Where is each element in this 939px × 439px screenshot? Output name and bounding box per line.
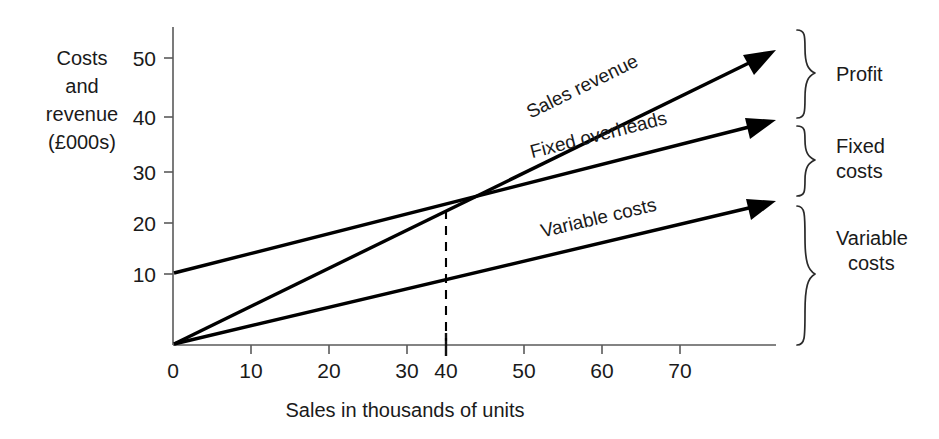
y-axis-title-line-4: (£000s) xyxy=(48,131,116,153)
x-tick-label-50: 50 xyxy=(512,359,535,382)
x-axis-title: Sales in thousands of units xyxy=(285,399,524,421)
x-axis-ticks: 0 10 20 30 40 50 60 70 xyxy=(167,333,692,382)
sales-revenue-arrow-icon xyxy=(743,50,776,75)
x-tick-label-30: 30 xyxy=(395,359,418,382)
variable-costs-arrow-icon xyxy=(746,199,776,220)
sales-revenue-line xyxy=(174,61,753,344)
bracket-profit: Profit xyxy=(797,30,883,118)
x-tick-label-60: 60 xyxy=(590,359,613,382)
y-axis-title-line-1: Costs xyxy=(56,47,107,69)
bracket-label-fixed-costs-line-2: costs xyxy=(836,160,883,182)
variable-costs-brace-icon xyxy=(797,206,815,345)
fixed-overheads-line xyxy=(174,126,753,273)
profit-brace-icon xyxy=(797,30,815,118)
series-fixed-overheads: Fixed overheads xyxy=(174,107,776,273)
y-tick-label-20: 20 xyxy=(133,212,156,235)
chart-page: Costs and revenue (£000s) 50 40 30 20 10… xyxy=(0,0,939,439)
series-variable-costs: Variable costs xyxy=(174,194,776,344)
y-tick-label-30: 30 xyxy=(133,161,156,184)
x-tick-label-0: 0 xyxy=(167,359,179,382)
x-tick-label-10: 10 xyxy=(239,359,262,382)
bracket-label-fixed-costs-line-1: Fixed xyxy=(836,135,885,157)
fixed-costs-brace-icon xyxy=(797,126,815,196)
y-tick-label-40: 40 xyxy=(133,106,156,129)
y-axis-ticks: 50 40 30 20 10 xyxy=(133,47,173,286)
fixed-overheads-arrow-icon xyxy=(745,118,776,139)
bracket-fixed-costs: Fixed costs xyxy=(797,126,885,196)
bracket-label-profit: Profit xyxy=(836,63,883,85)
y-axis-title-line-2: and xyxy=(65,75,98,97)
bracket-label-variable-costs-line-1: Variable xyxy=(836,227,908,249)
y-axis-title: Costs and revenue (£000s) xyxy=(46,47,118,153)
y-tick-label-10: 10 xyxy=(133,263,156,286)
x-tick-label-20: 20 xyxy=(317,359,340,382)
y-axis-title-line-3: revenue xyxy=(46,103,118,125)
bracket-variable-costs: Variable costs xyxy=(797,206,908,345)
x-tick-label-70: 70 xyxy=(668,359,691,382)
series-label-sales-revenue: Sales revenue xyxy=(523,50,641,122)
y-tick-label-50: 50 xyxy=(133,47,156,70)
x-tick-label-40: 40 xyxy=(434,359,457,382)
break-even-chart: Costs and revenue (£000s) 50 40 30 20 10… xyxy=(0,0,939,439)
bracket-label-variable-costs-line-2: costs xyxy=(848,252,895,274)
variable-costs-line xyxy=(174,207,753,344)
